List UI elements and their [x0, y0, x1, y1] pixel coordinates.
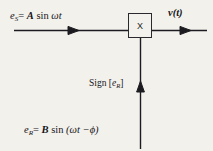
input-signal-variable: e: [10, 10, 15, 21]
input-signal-subscript: S: [15, 15, 19, 23]
reference-signal-function: sin: [51, 124, 63, 135]
sign-reference-subscript: R: [116, 82, 120, 89]
input-signal-argument: ωt: [51, 10, 61, 21]
sign-wire-arrowhead-icon: [137, 81, 145, 92]
input-signal-equals: =: [18, 10, 24, 21]
reference-signal-equals: =: [33, 124, 39, 135]
reference-signal-subscript: R: [29, 129, 33, 137]
output-wire-arrowhead-icon: [180, 26, 191, 34]
output-signal-argument: (t): [173, 7, 183, 18]
sign-reference-label: Sign [eR]: [89, 79, 123, 89]
sign-close-bracket: ]: [120, 78, 123, 88]
reference-signal-label: eR= B sin (ωt −ϕ): [24, 125, 99, 136]
multiplier-symbol-icon: X: [129, 14, 151, 37]
multiplier-block: X: [128, 13, 152, 38]
input-wire-arrowhead-icon: [68, 26, 79, 34]
block-diagram-canvas: X eS= A sin ωt v(t) Sign [eR] eR= B sin …: [0, 0, 213, 151]
sign-function-name: Sign: [89, 78, 106, 88]
input-signal-amplitude: A: [27, 10, 34, 21]
output-signal-label: v(t): [168, 8, 183, 19]
input-signal-label: eS= A sin ωt: [10, 11, 62, 22]
input-signal-function: sin: [36, 10, 48, 21]
reference-signal-argument: (ωt −ϕ): [66, 124, 98, 135]
reference-signal-variable: e: [24, 124, 29, 135]
reference-signal-amplitude: B: [42, 124, 49, 135]
